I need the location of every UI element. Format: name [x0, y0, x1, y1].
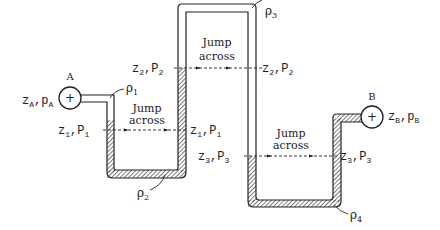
- rho-4-label: ρ4: [350, 208, 362, 224]
- svg-text:z2,P2: z2,P2: [132, 62, 163, 77]
- manometer-diagram: + A zA,pA + B zB,pB ρ1 ρ2 ρ3 ρ4 Jump acr…: [0, 0, 440, 230]
- bulb-a-state: zA,pA: [22, 94, 53, 109]
- bulb-b-state: zB,pB: [388, 110, 419, 125]
- jump-3: Jump across z3,P3 z3,P3: [198, 127, 371, 165]
- bulb-b-label: B: [368, 91, 375, 102]
- bulb-a: + A zA,pA: [22, 71, 81, 109]
- svg-text:z2,P2: z2,P2: [262, 62, 293, 77]
- rho-3-label: ρ3: [265, 4, 277, 20]
- bulb-b: + B zB,pB: [361, 91, 419, 128]
- plus-icon: +: [65, 91, 75, 105]
- bulb-a-label: A: [65, 71, 74, 82]
- jump-1: Jump across z1,P1 z1,P1: [58, 102, 221, 139]
- svg-text:across: across: [129, 114, 165, 127]
- svg-text:z1,P1: z1,P1: [190, 124, 221, 139]
- svg-text:z3,P3: z3,P3: [198, 150, 229, 165]
- liquid-fill: [107, 68, 362, 207]
- plus-icon: +: [367, 110, 377, 124]
- svg-text:across: across: [199, 50, 235, 63]
- svg-text:across: across: [273, 139, 309, 152]
- rho-1-label: ρ1: [126, 81, 138, 97]
- rho-2-label: ρ2: [137, 186, 149, 202]
- jump-2: Jump across z2,P2 z2,P2: [132, 36, 293, 77]
- svg-text:z3,P3: z3,P3: [340, 150, 371, 165]
- svg-text:z1,P1: z1,P1: [58, 124, 89, 139]
- svg-text:Jump: Jump: [202, 36, 232, 49]
